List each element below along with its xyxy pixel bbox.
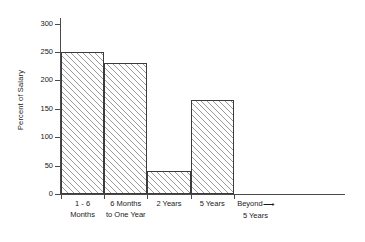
bar-chart-figure: Percent of Salary 050100150200250300 1 -… [0, 0, 365, 242]
bar-series [61, 18, 345, 194]
y-tick-mark [55, 80, 60, 81]
y-tick-label: 300 [40, 19, 53, 28]
y-tick-label: 150 [40, 104, 53, 113]
x-tick-label-line2: to One Year [90, 209, 161, 220]
bar [61, 52, 104, 194]
x-tick-label-line2: 5 Years [220, 210, 291, 221]
bar [147, 171, 190, 194]
y-tick: 300 [0, 24, 60, 25]
x-axis-line [60, 194, 345, 195]
y-axis-title: Percent of Salary [16, 25, 32, 175]
y-tick-mark [55, 24, 60, 25]
y-tick-label: 200 [40, 75, 53, 84]
y-tick-label: 0 [49, 189, 53, 198]
bar [191, 100, 234, 194]
y-tick-mark [55, 194, 60, 195]
y-tick-label: 100 [40, 132, 53, 141]
x-tick-label-line1: 1 - 6 [75, 199, 90, 208]
x-tick-label-line1: Beyond [237, 199, 262, 208]
y-tick: 200 [0, 80, 60, 81]
y-tick-mark [55, 109, 60, 110]
y-tick-mark [55, 166, 60, 167]
y-tick-mark [55, 137, 60, 138]
y-tick: 0 [0, 194, 60, 195]
y-tick: 50 [0, 166, 60, 167]
y-tick: 250 [0, 52, 60, 53]
bar [104, 63, 147, 194]
right-arrow-icon: ⟶ [263, 199, 274, 210]
y-tick-label: 50 [45, 161, 53, 170]
y-tick: 100 [0, 137, 60, 138]
x-axis-labels: 1 - 6Months6 Monthsto One Year2 Years5 Y… [61, 198, 351, 238]
x-tick-label: Beyond ⟶5 Years [220, 198, 291, 221]
y-tick: 150 [0, 109, 60, 110]
y-tick-label: 250 [40, 47, 53, 56]
y-tick-mark [55, 52, 60, 53]
